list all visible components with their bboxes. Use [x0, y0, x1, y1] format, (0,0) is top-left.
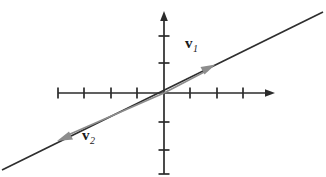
y-axis-arrowhead	[160, 11, 168, 21]
vector-v1-label-base: v	[185, 35, 193, 51]
vector-diagram-figure: v1 v2	[0, 0, 326, 177]
vector-v2	[57, 93, 164, 141]
vector-v2-label-subscript: 2	[90, 135, 96, 146]
vector-v2-label-base: v	[82, 127, 90, 143]
vector-v1-label: v1	[185, 36, 198, 54]
vector-v1-label-subscript: 1	[193, 43, 199, 54]
vector-diagram-canvas	[0, 0, 326, 177]
vector-v2-label: v2	[82, 128, 95, 146]
x-axis-arrowhead	[265, 89, 275, 97]
vector-v1-shaft	[164, 70, 208, 93]
